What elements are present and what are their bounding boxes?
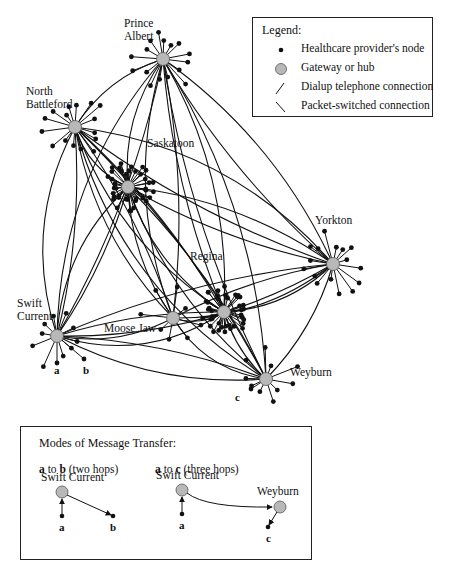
client-node <box>165 75 170 80</box>
gateway-hub-prince_albert <box>157 53 170 66</box>
client-node <box>240 326 245 331</box>
client-node <box>316 246 321 251</box>
client-node <box>64 113 69 118</box>
client-node <box>119 161 124 166</box>
client-node <box>244 358 249 363</box>
client-node <box>200 316 205 321</box>
client-node <box>225 296 230 301</box>
gateway-hub-icon <box>271 61 291 77</box>
client-node <box>75 339 80 344</box>
client-node <box>115 206 120 211</box>
gateway-hub-moose_jaw <box>167 312 180 325</box>
gateway-hub-saskatoon <box>122 181 135 194</box>
client-node <box>61 354 66 359</box>
client-node <box>119 169 124 174</box>
legend-label: Dialup telephone connection <box>301 80 433 92</box>
client-node <box>175 285 180 290</box>
client-node <box>74 103 79 108</box>
hub-link <box>163 59 179 318</box>
example2-end-label: c <box>266 532 271 544</box>
client-node <box>308 258 313 263</box>
example1-end-label: b <box>110 521 116 533</box>
client-node <box>82 357 87 362</box>
client-node <box>148 83 153 88</box>
label-yorkton: Yorkton <box>315 214 352 227</box>
client-node <box>238 295 243 300</box>
packet-line-icon <box>271 99 291 115</box>
client-node <box>78 147 83 152</box>
node-dot-icon <box>271 42 291 58</box>
client-node <box>223 324 228 329</box>
client-node <box>312 274 317 279</box>
client-node <box>129 54 134 59</box>
client-node <box>206 290 211 295</box>
client-node <box>143 177 148 182</box>
hub-link <box>75 127 173 318</box>
client-node <box>117 194 122 199</box>
client-node <box>153 288 158 293</box>
client-node <box>71 326 76 331</box>
client-node <box>111 191 116 196</box>
client-node <box>147 195 152 200</box>
legend-item-packet: Packet-switched connection <box>253 98 432 116</box>
client-node <box>290 381 295 386</box>
client-node <box>257 389 262 394</box>
client-node <box>144 199 149 204</box>
client-node <box>204 299 209 304</box>
client-node <box>239 313 244 318</box>
client-node <box>144 47 149 52</box>
client-node <box>308 244 313 249</box>
point-label-b: b <box>83 364 89 376</box>
hub-link <box>75 127 224 312</box>
label-regina: Regina <box>190 250 223 263</box>
client-node <box>167 337 172 342</box>
client-node <box>337 292 342 297</box>
client-node <box>207 306 212 311</box>
client-node <box>41 364 46 369</box>
label-line: Prince <box>124 17 153 30</box>
label-line: Swift <box>17 297 52 310</box>
client-node <box>105 174 110 179</box>
client-node <box>185 60 190 65</box>
client-node <box>357 281 362 286</box>
client-node <box>98 103 103 108</box>
client-node <box>144 168 149 173</box>
client-node <box>183 82 188 87</box>
client-node <box>93 137 98 142</box>
client-node <box>228 326 233 331</box>
client-node <box>216 328 221 333</box>
label-swift-current: Swift Current <box>17 297 52 323</box>
label-line: Battleford <box>26 98 73 111</box>
point-label-a: a <box>54 364 60 376</box>
legend-item-gateway: Gateway or hub <box>253 60 432 78</box>
label-line: Albert <box>124 30 153 43</box>
client-node <box>151 180 156 185</box>
client-node <box>113 181 118 186</box>
client-node <box>358 266 363 271</box>
gateway-hub-swift_current <box>51 330 64 343</box>
example2-start-label: a <box>179 519 185 531</box>
client-node <box>92 130 97 135</box>
client-node <box>241 321 246 326</box>
label-saskatoon: Saskatoon <box>147 137 194 150</box>
hub-link <box>266 264 333 379</box>
client-node <box>187 52 192 57</box>
label-moose-jaw: Moose Jaw <box>104 322 156 335</box>
client-node <box>239 308 244 313</box>
client-node <box>128 208 133 213</box>
client-node <box>64 311 69 316</box>
label-north-battleford: North Battleford <box>26 85 73 111</box>
legend-title: Legend: <box>262 23 301 38</box>
modes-title: Modes of Message Transfer: <box>39 436 176 451</box>
client-node <box>183 306 188 311</box>
client-node <box>110 177 115 182</box>
client-node <box>199 323 204 328</box>
legend-label: Healthcare provider's node <box>301 42 424 54</box>
hub-link <box>75 127 224 312</box>
gateway-hub-north_battleford <box>69 121 82 134</box>
example1-hub-label: Swift Current <box>41 471 104 483</box>
example2-hub2-label: Weyburn <box>257 485 299 497</box>
client-node <box>216 288 221 293</box>
client-node <box>91 149 96 154</box>
legend-label: Gateway or hub <box>301 61 374 73</box>
